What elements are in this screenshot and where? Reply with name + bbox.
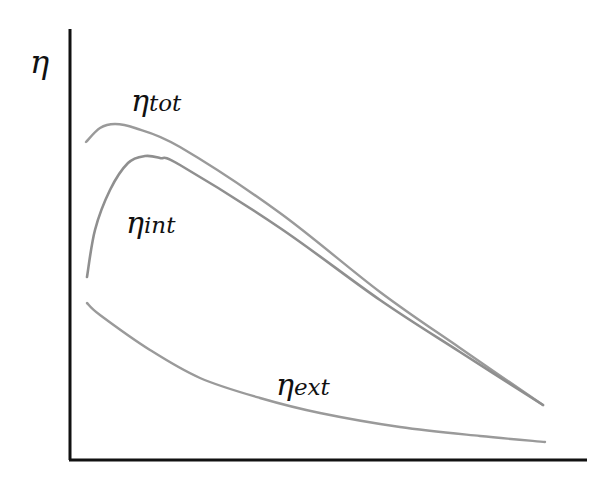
- y-axis-label: η: [30, 46, 49, 78]
- label-eta-tot-subscript: tot: [149, 90, 181, 116]
- y-axis-symbol: η: [30, 43, 49, 81]
- label-eta-int: ηint: [126, 208, 175, 238]
- label-eta-ext: ηext: [276, 370, 330, 400]
- label-eta-ext-symbol: η: [276, 367, 294, 402]
- curve-eta-int: [87, 156, 543, 405]
- label-eta-tot-symbol: η: [131, 83, 149, 118]
- label-eta-ext-subscript: ext: [294, 374, 330, 400]
- label-eta-int-symbol: η: [126, 205, 144, 240]
- efficiency-chart: [0, 0, 616, 484]
- label-eta-tot: ηtot: [131, 86, 181, 116]
- label-eta-int-subscript: int: [144, 212, 175, 238]
- curve-eta-tot: [86, 124, 543, 405]
